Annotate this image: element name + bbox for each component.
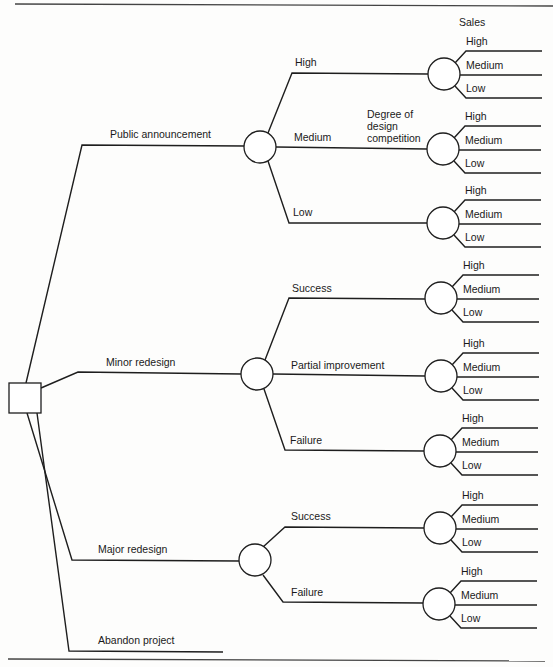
sales-outcome-label: Medium: [463, 283, 501, 295]
sales-chance-nodes: HighMediumLowHighMediumLowHighMediumLowH…: [423, 35, 542, 628]
sales-node-group: HighMediumLow: [427, 110, 541, 173]
sales-outcome-label: Medium: [466, 59, 504, 71]
sales-outcome-label: Low: [462, 536, 482, 548]
alt-label-minor-redesign: Minor redesign: [106, 356, 176, 368]
alt-label-abandon-project: Abandon project: [98, 634, 175, 646]
chance-node-sales: [424, 512, 456, 544]
outcome-label: Failure: [290, 434, 322, 446]
chance-node-major: [239, 544, 271, 576]
sales-outcome-label: Medium: [463, 361, 501, 373]
outcome-label: High: [295, 56, 317, 68]
chance-group-minor-redesign: Success Partial improvement Failure: [241, 282, 425, 451]
sales-outcome-label: Low: [462, 459, 482, 471]
chance-group-public-announcement: High Medium Low Degree of design competi…: [244, 56, 428, 223]
sales-outcome-label: Medium: [465, 208, 503, 220]
sales-column-header: Sales: [459, 16, 485, 28]
sales-node-group: HighMediumLow: [428, 35, 542, 98]
sales-outcome-label: Medium: [461, 589, 499, 601]
sales-outcome-label: Low: [463, 384, 483, 396]
outcome-label: Medium: [294, 131, 332, 143]
sales-node-group: HighMediumLow: [427, 184, 541, 247]
sales-outcome-label: High: [465, 110, 487, 122]
bottom-rule: [8, 659, 545, 661]
sales-outcome-label: Low: [466, 82, 486, 94]
sales-outcome-label: High: [466, 35, 488, 47]
chance-node-sales: [428, 58, 460, 90]
sales-outcome-label: High: [463, 259, 485, 271]
sales-node-group: HighMediumLow: [423, 565, 537, 628]
sales-outcome-label: Medium: [462, 513, 500, 525]
chance-node-announcement: [244, 131, 276, 163]
chance-group-major-redesign: Success Failure: [239, 510, 424, 603]
outcome-label: Success: [291, 510, 331, 522]
annotation-line: Degree of: [367, 108, 413, 120]
sales-node-group: HighMediumLow: [425, 259, 539, 322]
outcome-label: Low: [293, 206, 313, 218]
outcome-label: Failure: [291, 586, 323, 598]
sales-outcome-label: High: [465, 184, 487, 196]
alt-label-public-announcement: Public announcement: [110, 128, 211, 140]
sales-outcome-label: Medium: [465, 134, 503, 146]
decision-tree-diagram: Sales Public announcement Minor redesign…: [0, 0, 553, 667]
chance-node-sales: [425, 360, 457, 392]
sales-outcome-label: Low: [463, 306, 483, 318]
chance-node-sales: [427, 133, 459, 165]
alt-label-major-redesign: Major redesign: [98, 543, 168, 555]
decision-node-square: [9, 383, 41, 413]
sales-outcome-label: Medium: [462, 436, 500, 448]
sales-outcome-label: High: [463, 337, 485, 349]
chance-node-sales: [424, 435, 456, 467]
sales-outcome-label: Low: [465, 157, 485, 169]
top-rule: [15, 4, 553, 6]
decision-branches: [26, 145, 245, 652]
chance-node-sales: [427, 207, 459, 239]
sales-node-group: HighMediumLow: [425, 337, 539, 400]
sales-outcome-label: High: [461, 565, 483, 577]
chance-node-sales: [423, 588, 455, 620]
annotation-line: competition: [367, 132, 421, 144]
outcome-label: Success: [292, 282, 332, 294]
sales-node-group: HighMediumLow: [424, 412, 538, 475]
sales-outcome-label: Low: [465, 231, 485, 243]
annotation-line: design: [367, 120, 398, 132]
outcome-label: Partial improvement: [291, 359, 384, 371]
sales-outcome-label: Low: [461, 612, 481, 624]
chance-node-sales: [425, 282, 457, 314]
sales-outcome-label: High: [462, 489, 484, 501]
sales-node-group: HighMediumLow: [424, 489, 538, 552]
sales-outcome-label: High: [462, 412, 484, 424]
chance-node-minor: [241, 358, 273, 390]
